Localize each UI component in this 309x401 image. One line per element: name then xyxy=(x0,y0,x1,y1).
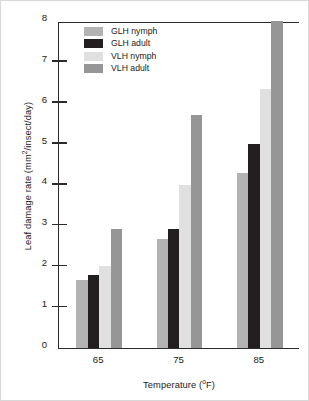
x-axis-title: Temperature (oF) xyxy=(58,378,300,390)
chart-legend: GLH nymphGLH adultVLH nymphVLH adult xyxy=(84,27,157,73)
legend-item-label: GLH adult xyxy=(111,39,150,48)
x-axis-title-tail: F) xyxy=(206,380,215,390)
bar xyxy=(76,280,87,348)
bar-group xyxy=(237,23,282,348)
legend-swatch-icon xyxy=(84,39,103,48)
legend-item: GLH nymph xyxy=(84,27,157,36)
bar xyxy=(88,275,99,348)
y-axis-tick-label: 8 xyxy=(42,12,47,23)
y-axis-tick-label: 4 xyxy=(42,175,47,186)
legend-item: VLH nymph xyxy=(84,52,157,61)
bar xyxy=(260,89,271,348)
y-axis-tick-label: 2 xyxy=(42,257,47,268)
bar-group xyxy=(157,23,202,348)
legend-item-label: VLH adult xyxy=(111,64,149,73)
legend-item-label: GLH nymph xyxy=(111,27,157,36)
bar xyxy=(179,185,190,348)
bar xyxy=(168,229,179,348)
y-axis-tick-label: 3 xyxy=(42,216,47,227)
y-axis-tick-label: 6 xyxy=(42,94,47,105)
y-axis-tick-label: 1 xyxy=(42,298,47,309)
x-axis-tick-label: 75 xyxy=(159,354,199,365)
y-axis-tick: 8 xyxy=(52,19,67,21)
y-axis-title: Leaf damage rate (mm2/insect/day) xyxy=(21,11,39,341)
legend-swatch-icon xyxy=(84,27,103,36)
y-axis-tick-label: 7 xyxy=(42,53,47,64)
bar xyxy=(99,266,110,348)
bar xyxy=(237,173,248,348)
x-axis-tick-label: 65 xyxy=(78,354,118,365)
bar xyxy=(191,115,202,348)
bar xyxy=(248,144,259,348)
bar xyxy=(271,21,282,348)
legend-swatch-icon xyxy=(84,64,103,73)
bar xyxy=(157,239,168,348)
legend-item: GLH adult xyxy=(84,39,157,48)
y-axis-title-main: Leaf damage rate (mm xyxy=(23,154,33,250)
legend-swatch-icon xyxy=(84,52,103,61)
chart-figure: Leaf damage rate (mm2/insect/day) 012345… xyxy=(0,0,309,401)
y-axis-title-tail: /insect/day) xyxy=(23,102,33,151)
bar xyxy=(111,229,122,348)
y-axis-title-superscript: 2 xyxy=(21,150,28,154)
legend-item: VLH adult xyxy=(84,64,157,73)
y-axis-tick-label: 5 xyxy=(42,135,47,146)
x-axis-tick-label: 85 xyxy=(239,354,279,365)
y-axis-tick-label: 0 xyxy=(42,339,47,350)
legend-item-label: VLH nymph xyxy=(111,52,156,61)
x-axis-title-main: Temperature ( xyxy=(143,380,202,390)
